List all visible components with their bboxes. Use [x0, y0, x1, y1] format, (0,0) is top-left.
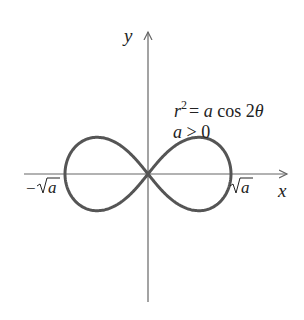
eq-exponent: 2	[181, 98, 187, 112]
svg-text:r2= a cos 2θ: r2= a cos 2θ	[174, 98, 264, 121]
y-axis-label: y	[122, 25, 133, 46]
eq-a: a	[204, 101, 213, 121]
x-axis-label: x	[277, 180, 287, 201]
lemniscate-diagram: y x r2= a cos 2θ a > 0 − a a	[0, 0, 304, 320]
equation-label: r2= a cos 2θ a > 0	[173, 98, 264, 142]
right-intercept-label: a	[230, 178, 253, 197]
eq-theta: θ	[255, 101, 264, 121]
condition-label: a > 0	[173, 122, 210, 142]
minus-sign: −	[26, 179, 36, 198]
eq-equals: =	[189, 101, 204, 121]
diagram-canvas: y x r2= a cos 2θ a > 0 − a a	[0, 0, 304, 320]
left-intercept-label: − a	[26, 178, 60, 198]
right-a: a	[241, 178, 250, 197]
cond-a: a	[173, 122, 182, 142]
eq-cos: cos 2	[213, 101, 255, 121]
cond-rest: > 0	[182, 122, 210, 142]
left-a: a	[48, 178, 57, 197]
